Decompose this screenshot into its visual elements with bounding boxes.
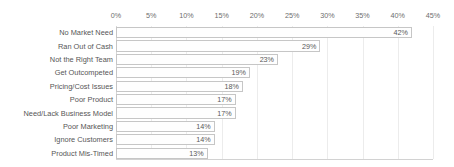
- bar-value-label: 19%: [231, 67, 248, 78]
- category-label-row: Product Mis-Timed: [0, 147, 113, 160]
- bar-row: 17%: [116, 106, 433, 119]
- x-tick-label: 5%: [146, 9, 156, 22]
- bar-row: 17%: [116, 93, 433, 106]
- bar[interactable]: 13%: [116, 148, 208, 159]
- bar-rows: 42%29%23%19%18%17%17%14%14%13%: [116, 26, 433, 159]
- bar-row: 19%: [116, 66, 433, 79]
- category-label: Need/Lack Business Model: [23, 108, 113, 119]
- bar[interactable]: 23%: [116, 54, 278, 65]
- bar-value-label: 17%: [217, 94, 234, 105]
- category-label-row: Need/Lack Business Model: [0, 106, 113, 119]
- bar[interactable]: 18%: [116, 81, 243, 92]
- x-tick-label: 30%: [320, 9, 334, 22]
- gridline: [433, 26, 434, 159]
- bar-value-label: 13%: [189, 148, 206, 159]
- category-label-row: Get Outcompeted: [0, 66, 113, 79]
- category-label: Ignore Customers: [54, 134, 113, 145]
- category-label-row: Pricing/Cost Issues: [0, 80, 113, 93]
- category-label-row: Ran Out of Cash: [0, 39, 113, 52]
- bar-row: 23%: [116, 53, 433, 66]
- bar[interactable]: 17%: [116, 94, 236, 105]
- x-tick-label: 35%: [355, 9, 369, 22]
- x-tick-label: 40%: [391, 9, 405, 22]
- category-label: Get Outcompeted: [55, 67, 113, 78]
- bar-value-label: 17%: [217, 108, 234, 119]
- bar[interactable]: 29%: [116, 40, 320, 51]
- category-label-row: Poor Marketing: [0, 120, 113, 133]
- bar-value-label: 18%: [224, 81, 241, 92]
- bar[interactable]: 19%: [116, 67, 250, 78]
- bar-row: 13%: [116, 147, 433, 160]
- bar-row: 14%: [116, 120, 433, 133]
- bar-value-label: 29%: [302, 41, 319, 52]
- bar-row: 14%: [116, 133, 433, 146]
- category-label-row: Ignore Customers: [0, 133, 113, 146]
- x-tick-label: 45%: [426, 9, 440, 22]
- x-axis-tick-labels: 0%5%10%15%20%25%30%35%40%45%: [0, 9, 454, 22]
- category-label-row: Not the Right Team: [0, 53, 113, 66]
- bar-value-label: 14%: [196, 121, 213, 132]
- bar[interactable]: 42%: [116, 27, 412, 38]
- x-tick-label: 20%: [250, 9, 264, 22]
- bar-row: 42%: [116, 26, 433, 39]
- bar[interactable]: 14%: [116, 121, 215, 132]
- y-axis-category-labels: No Market NeedRan Out of CashNot the Rig…: [0, 26, 113, 160]
- x-tick-label: 10%: [179, 9, 193, 22]
- bar-value-label: 23%: [260, 54, 277, 65]
- bar-row: 29%: [116, 39, 433, 52]
- bar-value-label: 14%: [196, 134, 213, 145]
- category-label: Ran Out of Cash: [58, 41, 113, 52]
- plot-area: 42%29%23%19%18%17%17%14%14%13%: [116, 26, 433, 160]
- bar[interactable]: 14%: [116, 134, 215, 145]
- category-label: Not the Right Team: [50, 54, 113, 65]
- category-label-row: Poor Product: [0, 93, 113, 106]
- category-label: No Market Need: [59, 27, 113, 38]
- bar-chart: 0%5%10%15%20%25%30%35%40%45% 42%29%23%19…: [0, 0, 454, 167]
- bar-row: 18%: [116, 80, 433, 93]
- category-label: Product Mis-Timed: [51, 148, 113, 159]
- bar[interactable]: 17%: [116, 107, 236, 118]
- category-label-row: No Market Need: [0, 26, 113, 39]
- bar-value-label: 42%: [393, 27, 410, 38]
- x-tick-label: 25%: [285, 9, 299, 22]
- category-label: Poor Marketing: [63, 121, 113, 132]
- x-tick-label: 15%: [214, 9, 228, 22]
- category-label: Poor Product: [70, 94, 113, 105]
- category-label: Pricing/Cost Issues: [50, 81, 113, 92]
- x-tick-label: 0%: [111, 9, 121, 22]
